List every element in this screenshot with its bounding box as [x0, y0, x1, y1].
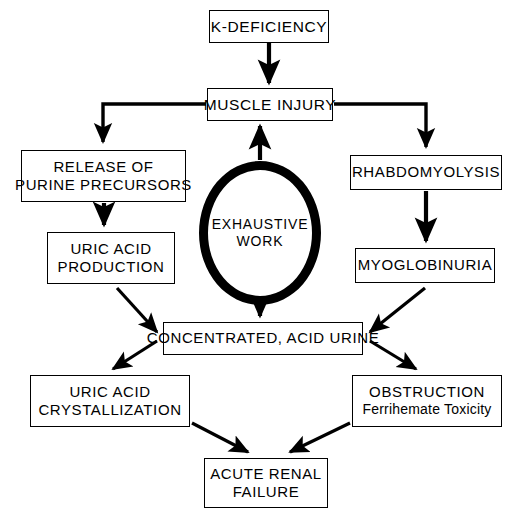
node-obstruction-line1: OBSTRUCTION — [369, 384, 485, 401]
node-concentrated-acid-urine[interactable]: CONCENTRATED, ACID URINE — [163, 322, 363, 355]
node-release-of-purine-precursors[interactable]: RELEASE OF PURINE PRECURSORS — [21, 150, 186, 202]
node-exhaustive-work-line1: EXHAUSTIVE — [212, 216, 309, 234]
flowchart-diagram: K-DEFICIENCY MUSCLE INJURY RELEASE OF PU… — [0, 0, 514, 517]
node-myoglobinuria[interactable]: MYOGLOBINURIA — [355, 248, 495, 283]
node-uric-acid-production-line2: PRODUCTION — [58, 259, 165, 276]
node-myoglobinuria-line1: MYOGLOBINURIA — [358, 257, 493, 274]
node-k-deficiency-line1: K-DEFICIENCY — [211, 18, 328, 35]
edge-obstruction-to-acute-renal-failure — [290, 423, 350, 452]
node-concentrated-acid-urine-line1: CONCENTRATED, ACID URINE — [147, 330, 379, 347]
node-exhaustive-work-line2: WORK — [237, 233, 284, 251]
edge-myoglobinuria-to-concentrated-acid-urine — [370, 288, 425, 332]
node-uric-acid-crystallization-line2: CRYSTALLIZATION — [38, 402, 181, 419]
node-acute-renal-failure-line1: ACUTE RENAL — [210, 466, 322, 483]
node-exhaustive-work[interactable]: EXHAUSTIVE WORK — [199, 161, 321, 305]
edge-uric-acid-production-to-concentrated-acid-urine — [117, 288, 157, 332]
node-uric-acid-crystallization[interactable]: URIC ACID CRYSTALLIZATION — [30, 375, 190, 427]
node-muscle-injury[interactable]: MUSCLE INJURY — [207, 88, 333, 121]
node-rhabdomyolysis[interactable]: RHABDOMYOLYSIS — [350, 155, 502, 190]
node-uric-acid-production[interactable]: URIC ACID PRODUCTION — [47, 232, 175, 284]
node-rhabdomyolysis-line1: RHABDOMYOLYSIS — [352, 164, 500, 181]
node-obstruction[interactable]: OBSTRUCTION Ferrihemate Toxicity — [352, 375, 502, 427]
node-release-of-purine-precursors-line1: RELEASE OF — [53, 159, 153, 176]
node-obstruction-line2: Ferrihemate Toxicity — [362, 402, 491, 418]
node-k-deficiency[interactable]: K-DEFICIENCY — [209, 10, 329, 43]
node-release-of-purine-precursors-line2: PURINE PRECURSORS — [15, 177, 192, 194]
edge-muscle-injury-to-release-purine — [103, 104, 206, 142]
node-muscle-injury-line1: MUSCLE INJURY — [204, 96, 336, 113]
edge-uric-acid-crystallization-to-acute-renal-failure — [192, 423, 248, 452]
edge-muscle-injury-to-rhabdomyolysis — [334, 104, 426, 147]
node-uric-acid-production-line1: URIC ACID — [70, 241, 151, 258]
node-acute-renal-failure-line2: FAILURE — [233, 484, 300, 501]
node-uric-acid-crystallization-line1: URIC ACID — [69, 384, 150, 401]
node-acute-renal-failure[interactable]: ACUTE RENAL FAILURE — [204, 458, 328, 508]
